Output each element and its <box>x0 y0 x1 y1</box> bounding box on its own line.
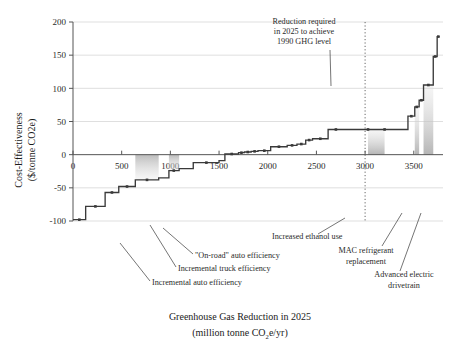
annotation-mac-refrigerant-line2: replacement <box>346 257 387 266</box>
x-tick-label: 3500 <box>405 161 424 171</box>
chart-background <box>0 0 456 348</box>
data-point-marker <box>367 128 370 131</box>
data-point-marker <box>291 144 294 147</box>
data-point-marker <box>246 151 249 154</box>
shaded-band-incremental-truck-efficiency <box>169 155 179 171</box>
x-axis-title-line2-pre: (million tonne CO <box>192 327 265 339</box>
data-point-marker <box>415 106 418 109</box>
annotation-reduction-required: Reduction required in 2025 to achieve 19… <box>273 17 336 46</box>
data-point-marker <box>383 128 386 131</box>
data-point-marker <box>126 185 129 188</box>
y-tick-label: 100 <box>53 84 67 94</box>
shaded-band-increased-ethanol-use <box>368 129 385 154</box>
x-axis-title-line2-post: e/yr) <box>269 327 288 339</box>
data-point-marker <box>434 55 437 58</box>
cost-effectiveness-chart: -100-50050100150200 05001000150020002500… <box>0 0 456 348</box>
x-tick-label: 2000 <box>259 161 278 171</box>
y-axis-title-line1: Cost-Effectiveness <box>13 112 24 187</box>
y-tick-label: -50 <box>54 183 66 193</box>
data-point-marker <box>308 139 311 142</box>
y-tick-label: 50 <box>57 117 67 127</box>
y-tick-label: 150 <box>53 50 67 60</box>
data-point-marker <box>146 179 149 182</box>
data-point-marker <box>278 145 281 148</box>
data-point-marker <box>240 151 243 154</box>
annotation-advanced-electric-line2: drivetrain <box>388 281 420 290</box>
annotation-reduction-required-line1: Reduction required <box>273 17 336 26</box>
annotation-mac-refrigerant-line1: MAC refrigerant <box>338 246 394 255</box>
annotation-reduction-required-line3: 1990 GHG level <box>277 37 332 46</box>
annotation-reduction-required-line2: in 2025 to achieve <box>274 27 335 36</box>
data-point-marker <box>437 35 440 38</box>
y-tick-label: 0 <box>62 150 67 160</box>
data-point-marker <box>427 84 430 87</box>
annotation-increased-ethanol-use: Increased ethanol use <box>272 232 343 241</box>
data-point-marker <box>205 161 208 164</box>
data-point-marker <box>300 143 303 146</box>
y-tick-label: 200 <box>53 17 67 27</box>
data-point-marker <box>230 153 233 156</box>
annotation-advanced-electric-line1: Advanced electric <box>374 270 434 279</box>
x-axis-title-line1: Greenhouse Gas Reduction in 2025 <box>169 311 311 322</box>
y-axis-title: Cost-Effectiveness ($/tonne CO2e) <box>13 112 38 187</box>
data-point-marker <box>172 169 175 172</box>
data-point-marker <box>78 218 81 221</box>
x-tick-label: 2500 <box>307 161 326 171</box>
annotation-incremental-truck-efficiency: Incremental truck efficiency <box>178 264 271 273</box>
data-point-marker <box>335 128 338 131</box>
data-point-marker <box>410 115 413 118</box>
data-point-marker <box>94 205 97 208</box>
data-point-marker <box>263 149 266 152</box>
data-point-marker <box>111 191 114 194</box>
annotation-on-road-auto-efficiency: "On-road" auto efficiency <box>195 251 281 260</box>
x-tick-label: 500 <box>115 161 129 171</box>
shaded-band-incremental-auto-efficiency <box>135 155 158 180</box>
annotation-incremental-auto-efficiency: Incremental auto efficiency <box>152 278 243 287</box>
shaded-band-advanced-electric-drivetrain <box>424 85 434 155</box>
data-point-marker <box>319 137 322 140</box>
data-point-marker <box>253 150 256 153</box>
y-tick-label: -100 <box>50 216 67 226</box>
data-point-marker <box>420 99 423 102</box>
chart-svg: -100-50050100150200 05001000150020002500… <box>0 0 456 348</box>
y-axis-title-line2: ($/tonne CO2e) <box>26 119 38 182</box>
